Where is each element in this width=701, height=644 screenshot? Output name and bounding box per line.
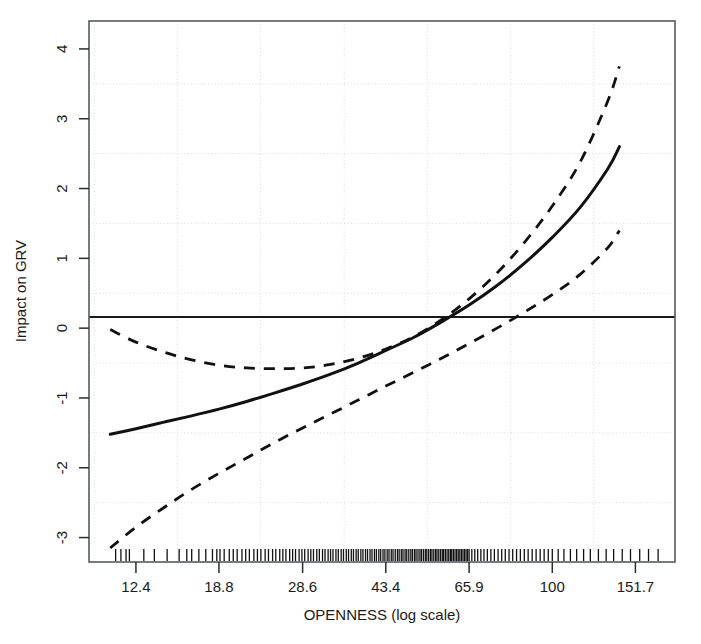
y-tick-label: -2: [54, 461, 71, 474]
x-tick-label: 151.7: [617, 578, 655, 595]
y-tick-label: -1: [54, 391, 71, 404]
x-axis-tick-labels: 12.418.828.643.465.9100151.7: [121, 578, 654, 595]
x-axis-title: OPENNESS (log scale): [304, 606, 461, 623]
x-tick-label: 12.4: [121, 578, 150, 595]
y-axis-ticks: [79, 49, 89, 538]
x-tick-label: 100: [540, 578, 565, 595]
y-tick-label: -3: [54, 531, 71, 544]
y-tick-label: 2: [54, 184, 71, 192]
y-tick-label: 3: [54, 115, 71, 123]
y-axis-title: Impact on GRV: [12, 240, 29, 342]
y-tick-label: 1: [54, 254, 71, 262]
y-axis-tick-labels: -3-2-101234: [54, 45, 71, 544]
y-tick-label: 0: [54, 324, 71, 332]
plot-area-background: [89, 21, 675, 562]
x-tick-label: 28.6: [288, 578, 317, 595]
x-tick-label: 18.8: [204, 578, 233, 595]
y-tick-label: 4: [54, 45, 71, 53]
x-tick-label: 65.9: [455, 578, 484, 595]
chart-figure: -3-2-101234 12.418.828.643.465.9100151.7…: [0, 0, 701, 644]
x-tick-label: 43.4: [371, 578, 400, 595]
x-axis-ticks: [136, 562, 635, 573]
